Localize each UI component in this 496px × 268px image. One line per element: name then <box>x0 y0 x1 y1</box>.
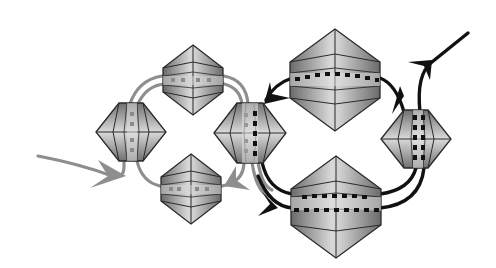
crystal-right-bottom <box>291 156 381 258</box>
input-arrowhead-icon <box>90 160 126 188</box>
crystal-left-bottom <box>161 154 221 224</box>
crystal-left-left <box>96 103 166 161</box>
output-arrowhead-icon <box>408 60 432 80</box>
crystal-left-top <box>163 45 223 115</box>
crystal-right-right <box>381 110 451 168</box>
crystal-center-shared <box>214 103 286 163</box>
crystal-right-top <box>290 29 380 131</box>
crystal-loop-diagram <box>0 0 496 268</box>
